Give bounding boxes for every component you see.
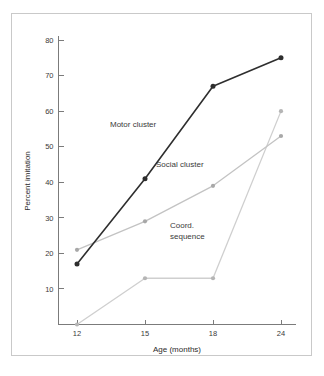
data-point — [75, 322, 79, 326]
series-annotation: Motor cluster — [110, 120, 157, 129]
x-axis-title: Age (months) — [153, 345, 201, 354]
x-tick-label: 12 — [73, 329, 81, 338]
data-point — [143, 219, 147, 223]
data-point — [75, 248, 79, 252]
series-annotation: Coord.sequence — [170, 221, 205, 241]
data-point — [279, 134, 283, 138]
series-annotation: Social cluster — [156, 160, 204, 169]
data-point — [279, 109, 283, 113]
figure-root: 1020304050607080 12151824 Percent imitat… — [0, 0, 324, 376]
line-chart: 1020304050607080 12151824 Percent imitat… — [0, 0, 324, 376]
y-tick-label: 40 — [45, 178, 53, 187]
data-point — [143, 276, 147, 280]
data-point — [75, 262, 80, 267]
y-tick-label: 70 — [45, 71, 53, 80]
data-point — [211, 276, 215, 280]
y-tick-label: 10 — [45, 285, 53, 294]
x-tick-label: 18 — [209, 329, 217, 338]
data-point — [279, 55, 284, 60]
x-tick-label: 15 — [141, 329, 149, 338]
data-point — [211, 184, 215, 188]
series-layer — [75, 55, 284, 326]
y-tick-label: 30 — [45, 214, 53, 223]
y-tick-label: 20 — [45, 249, 53, 258]
annotation-line: Social cluster — [156, 160, 204, 169]
y-tick-label: 50 — [45, 142, 53, 151]
x-tick-label: 24 — [277, 329, 285, 338]
x-axis-ticks: 12151824 — [73, 320, 285, 338]
annotation-line: Motor cluster — [110, 120, 157, 129]
axes — [59, 36, 297, 325]
series-coord-sequence — [75, 109, 283, 327]
series-line — [77, 111, 281, 324]
y-axis-ticks: 1020304050607080 — [45, 36, 63, 294]
data-point — [143, 176, 148, 181]
y-axis-title: Percent imitation — [23, 151, 32, 211]
y-tick-label: 60 — [45, 107, 53, 116]
annotation-line: sequence — [170, 232, 205, 241]
y-tick-label: 80 — [45, 36, 53, 45]
annotation-layer: Motor clusterSocial clusterCoord.sequenc… — [110, 120, 205, 241]
annotation-line: Coord. — [170, 221, 194, 230]
data-point — [211, 84, 216, 89]
